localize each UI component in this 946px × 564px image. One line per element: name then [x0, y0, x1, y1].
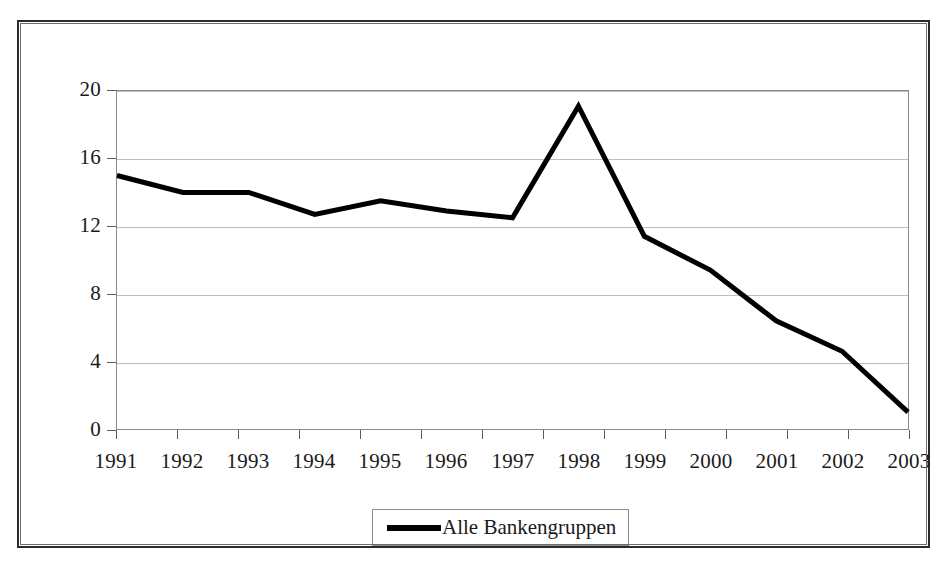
y-tick-mark-20: [107, 90, 116, 91]
x-tick-label-2003: 2003: [888, 448, 931, 474]
x-tick-mark-6: [482, 430, 483, 439]
x-tick-label-1998: 1998: [558, 448, 601, 474]
x-tick-mark-13: [909, 430, 910, 439]
y-tick-label-0: 0: [41, 419, 101, 440]
figure-canvas: 201612840 199119921993199419951996199719…: [0, 0, 946, 564]
x-tick-mark-5: [421, 430, 422, 439]
x-tick-label-2000: 2000: [690, 448, 733, 474]
x-tick-label-1992: 1992: [161, 448, 204, 474]
x-tick-mark-3: [299, 430, 300, 439]
x-tick-label-1995: 1995: [359, 448, 402, 474]
y-tick-mark-12: [107, 226, 116, 227]
x-tick-mark-0: [116, 430, 117, 439]
x-axis-tick-marks: [116, 430, 909, 440]
legend-label: Alle Bankengruppen: [442, 517, 616, 538]
x-axis-labels: 1991199219931994199519961997199819992000…: [116, 448, 909, 480]
y-tick-label-8: 8: [41, 283, 101, 304]
series-line-alle-bankengruppen: [117, 106, 908, 412]
x-tick-label-1996: 1996: [425, 448, 468, 474]
y-tick-mark-4: [107, 362, 116, 363]
x-tick-mark-7: [543, 430, 544, 439]
x-tick-mark-1: [177, 430, 178, 439]
x-tick-mark-8: [604, 430, 605, 439]
x-tick-label-2002: 2002: [822, 448, 865, 474]
line-chart-svg: [117, 91, 908, 429]
chart-legend: Alle Bankengruppen: [372, 509, 629, 546]
y-tick-label-12: 12: [41, 215, 101, 236]
x-tick-mark-2: [238, 430, 239, 439]
x-tick-mark-11: [787, 430, 788, 439]
y-tick-mark-8: [107, 294, 116, 295]
x-tick-mark-12: [848, 430, 849, 439]
x-tick-label-1997: 1997: [492, 448, 535, 474]
y-tick-mark-16: [107, 158, 116, 159]
y-tick-label-4: 4: [41, 351, 101, 372]
x-tick-label-1999: 1999: [624, 448, 667, 474]
y-tick-label-20: 20: [41, 79, 101, 100]
x-tick-mark-4: [360, 430, 361, 439]
x-tick-label-1994: 1994: [293, 448, 336, 474]
x-tick-mark-9: [665, 430, 666, 439]
y-tick-label-16: 16: [41, 147, 101, 168]
y-tick-mark-0: [107, 430, 116, 431]
y-axis-labels: 201612840: [39, 90, 101, 430]
x-tick-label-2001: 2001: [756, 448, 799, 474]
figure-outer-border: 201612840 199119921993199419951996199719…: [17, 20, 930, 548]
legend-line-swatch-icon: [387, 525, 441, 531]
plot-area: [116, 90, 909, 430]
x-tick-label-1991: 1991: [95, 448, 138, 474]
x-tick-mark-10: [726, 430, 727, 439]
x-tick-label-1993: 1993: [227, 448, 270, 474]
